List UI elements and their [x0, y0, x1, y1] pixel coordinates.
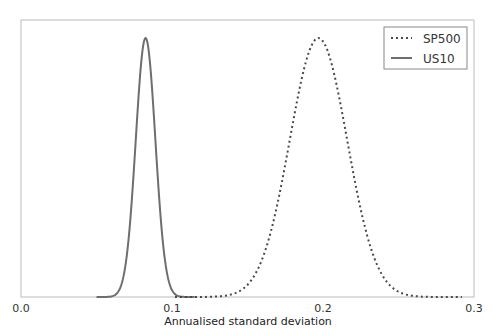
legend: SP500 US10: [384, 27, 467, 69]
legend-label-sp500: SP500: [423, 32, 461, 46]
x-tick-label: 0.1: [163, 302, 181, 315]
x-axis-label: Annualised standard deviation: [164, 315, 332, 328]
x-tick-label: 0.0: [12, 302, 30, 315]
x-axis: 0.0 0.1 0.2 0.3 Annualised standard devi…: [12, 302, 483, 328]
density-chart: 0.0 0.1 0.2 0.3 Annualised standard devi…: [0, 0, 497, 336]
legend-label-us10: US10: [423, 52, 455, 66]
x-tick-label: 0.2: [314, 302, 332, 315]
x-tick-label: 0.3: [465, 302, 483, 315]
